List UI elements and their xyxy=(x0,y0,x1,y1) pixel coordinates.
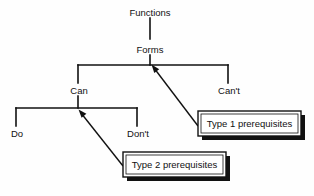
node-label-functions: Functions xyxy=(129,7,170,18)
node-label-dont: Don't xyxy=(127,128,149,139)
arrow-type1-to-forms xyxy=(152,65,199,127)
box-type-1-prerequisites[interactable]: Type 1 prerequisites xyxy=(198,111,305,140)
box-type-1-label: Type 1 prerequisites xyxy=(207,118,293,129)
node-label-forms: Forms xyxy=(137,44,164,55)
box-type-2-prerequisites[interactable]: Type 2 prerequisites xyxy=(123,152,230,181)
arrow-type2-to-can xyxy=(79,110,124,167)
diagram-svg: Functions Forms Can Can't Do Don't Type … xyxy=(0,0,314,196)
node-label-can: Can xyxy=(70,85,87,96)
diagram-canvas: Functions Forms Can Can't Do Don't Type … xyxy=(0,0,314,196)
node-label-do: Do xyxy=(11,128,23,139)
node-label-cant: Can't xyxy=(218,85,240,96)
box-type-2-label: Type 2 prerequisites xyxy=(132,159,218,170)
